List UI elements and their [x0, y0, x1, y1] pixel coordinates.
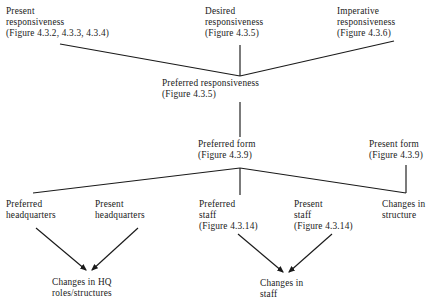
node-preferred-headquarters: Preferred headquarters: [6, 199, 56, 221]
node-line: responsiveness: [205, 17, 263, 28]
node-desired-responsiveness: Desired responsiveness (Figure 4.3.5): [205, 6, 263, 40]
node-line: (Figure 4.3.9): [369, 150, 423, 161]
edge-imperative-resp-to-preferred-resp: [240, 41, 394, 76]
node-present-staff: Present staff (Figure 4.3.14): [294, 199, 353, 233]
node-line: headquarters: [6, 210, 56, 221]
node-line: staff: [294, 210, 353, 221]
node-line: (Figure 4.3.14): [199, 221, 258, 232]
node-line: Changes in HQ: [52, 277, 112, 288]
edge-preferred-staff-to-changes-staff: [238, 234, 283, 272]
node-line: Present: [95, 199, 145, 210]
node-line: (Figure 4.3.9): [198, 150, 256, 161]
node-changes-in-hq-roles: Changes in HQ roles/structures: [52, 277, 112, 299]
edge-preferred-hq-to-changes-hq: [36, 228, 86, 270]
node-line: Preferred responsiveness: [162, 78, 259, 89]
node-line: structure: [382, 210, 425, 221]
node-line: Changes in: [260, 278, 303, 289]
node-line: (Figure 4.3.6): [337, 28, 395, 39]
node-preferred-staff: Preferred staff (Figure 4.3.14): [199, 199, 258, 233]
node-line: Preferred: [199, 199, 258, 210]
node-changes-in-structure: Changes in structure: [382, 199, 425, 221]
node-changes-in-staff: Changes in staff: [260, 278, 303, 300]
node-line: Present: [6, 6, 109, 17]
node-line: (Figure 4.3.5): [162, 89, 259, 100]
node-present-responsiveness: Present responsiveness (Figure 4.3.2, 4.…: [6, 6, 109, 40]
edge-preferred-form-to-preferred-headquarters: [33, 168, 240, 193]
node-line: Preferred: [6, 199, 56, 210]
edge-present-hq-to-changes-hq: [92, 228, 138, 270]
node-line: responsiveness: [337, 17, 395, 28]
node-line: Preferred form: [198, 139, 256, 150]
node-preferred-form: Preferred form (Figure 4.3.9): [198, 139, 256, 161]
node-imperative-responsiveness: Imperative responsiveness (Figure 4.3.6): [337, 6, 395, 40]
node-preferred-responsiveness: Preferred responsiveness (Figure 4.3.5): [162, 78, 259, 100]
node-line: Changes in: [382, 199, 425, 210]
node-line: Desired: [205, 6, 263, 17]
node-line: (Figure 4.3.5): [205, 28, 263, 39]
node-line: (Figure 4.3.2, 4.3.3, 4.3.4): [6, 28, 109, 39]
node-line: staff: [260, 289, 303, 300]
node-line: Imperative: [337, 6, 395, 17]
node-line: (Figure 4.3.14): [294, 221, 353, 232]
edge-preferred-form-to-changes-in-structure: [240, 168, 406, 193]
edge-present-resp-to-preferred-resp: [60, 44, 240, 76]
node-present-form: Present form (Figure 4.3.9): [369, 139, 423, 161]
node-line: responsiveness: [6, 17, 109, 28]
node-line: headquarters: [95, 210, 145, 221]
node-present-headquarters: Present headquarters: [95, 199, 145, 221]
node-line: staff: [199, 210, 258, 221]
diagram-canvas: Present responsiveness (Figure 4.3.2, 4.…: [0, 0, 440, 307]
node-line: Present form: [369, 139, 423, 150]
node-line: Present: [294, 199, 353, 210]
node-line: roles/structures: [52, 288, 112, 299]
edge-present-staff-to-changes-staff: [289, 234, 332, 272]
